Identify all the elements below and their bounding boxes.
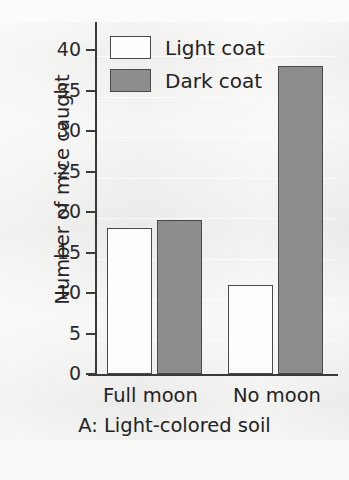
legend-label-light-coat: Light coat	[165, 36, 265, 60]
y-axis-tick	[86, 292, 96, 294]
legend-swatch-light-coat	[110, 36, 151, 59]
y-axis-tick	[86, 252, 96, 254]
figure-caption: A: Light-colored soil	[0, 414, 349, 437]
legend-swatch-dark-coat	[110, 69, 151, 92]
category-label-full-moon: Full moon	[88, 384, 213, 407]
legend-label-dark-coat: Dark coat	[165, 69, 262, 93]
bar-full-moon-light-coat	[107, 228, 152, 374]
x-axis-line	[88, 374, 338, 376]
y-axis-line	[95, 22, 97, 375]
legend-item-dark-coat: Dark coat	[110, 66, 265, 95]
y-axis-tick	[86, 49, 96, 51]
legend-item-light-coat: Light coat	[110, 33, 265, 62]
y-axis-tick	[86, 211, 96, 213]
bar-full-moon-dark-coat	[157, 220, 202, 374]
y-axis-tick	[86, 373, 96, 375]
y-axis-tick-label: 0	[41, 364, 81, 383]
figure-container: 4035302520151050 Number of mice caught L…	[0, 0, 349, 480]
bottom-margin	[0, 440, 349, 480]
bar-no-moon-dark-coat	[278, 66, 323, 374]
y-axis-title: Number of mice caught	[51, 40, 74, 340]
y-axis-tick	[86, 333, 96, 335]
category-label-no-moon: No moon	[216, 384, 338, 407]
y-axis-tick	[86, 171, 96, 173]
bar-no-moon-light-coat	[228, 285, 273, 374]
y-axis-tick	[86, 130, 96, 132]
top-margin	[0, 0, 349, 22]
legend: Light coat Dark coat	[110, 33, 265, 99]
y-axis-tick	[86, 90, 96, 92]
